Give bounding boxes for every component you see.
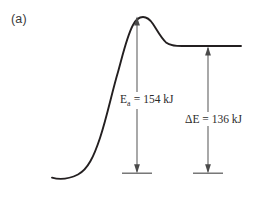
enthalpy-change-value: 136 (212, 113, 229, 125)
panel-label: (a) (11, 12, 27, 26)
enthalpy-change-label: ΔE = 136 kJ (183, 112, 244, 126)
energy-profile-figure: (a) Ea = 154 kJ ΔE = 136 kJ (0, 0, 256, 197)
enthalpy-change-symbol: ΔE (185, 113, 199, 125)
activation-energy-unit: kJ (163, 93, 173, 105)
enthalpy-change-unit: kJ (232, 113, 242, 125)
enthalpy-change-equals: = (202, 113, 209, 125)
activation-energy-label: Ea = 154 kJ (118, 92, 176, 109)
activation-energy-value: 154 (143, 93, 160, 105)
activation-energy-equals: = (134, 93, 141, 105)
activation-energy-symbol: E (120, 93, 127, 105)
